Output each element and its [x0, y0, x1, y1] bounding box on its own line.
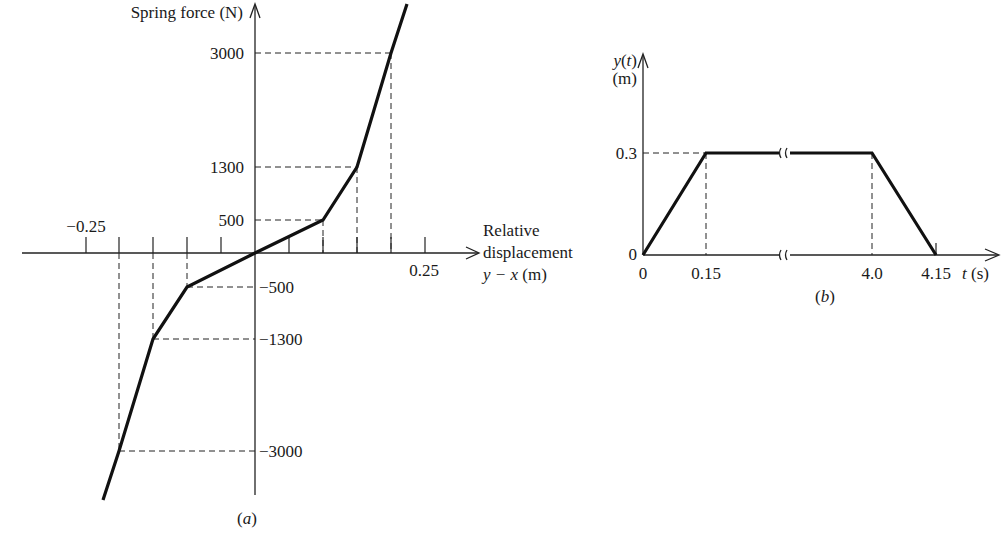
panel-b-xtick-0: 0 [639, 264, 648, 283]
panel-a-x-axis-label-line3: y − x (m) [481, 265, 547, 284]
panel-a-spring-force-chart: Spring force (N) 3000 1300 500 −500 −130… [22, 3, 573, 528]
panel-a-ytick-1300: 1300 [210, 158, 244, 177]
panel-b-xtick-415-label: 4.15 [921, 264, 951, 283]
panel-b-displacement-chart: y(t) (m) 0.3 0 0 0.15 4.0 4.15 t (s) (b) [611, 51, 999, 306]
panel-b-displacement-curve-left [643, 153, 779, 255]
panel-a-ytick-neg1300: −1300 [259, 330, 303, 349]
panel-a-y-axis-label: Spring force (N) [131, 3, 243, 22]
panel-b-displacement-curve-right [790, 153, 936, 255]
panel-a-ytick-500: 500 [219, 211, 245, 230]
panel-a-x-axis-label-line2: displacement [483, 243, 573, 262]
panel-b-ytick-03: 0.3 [616, 144, 637, 163]
panel-a-x-axis-label-unit: (m) [518, 265, 547, 284]
panel-b-xtick-015-label: 0.15 [691, 264, 721, 283]
panel-a-xtick-025: 0.25 [409, 261, 439, 280]
panel-b-curve-break-icon [780, 148, 788, 158]
panel-a-x-axis-label-line1: Relative [483, 221, 540, 240]
panel-b-x-axis-label: t (s) [962, 264, 989, 283]
panel-b-guide-lines [643, 153, 872, 255]
figure: Spring force (N) 3000 1300 500 −500 −130… [0, 0, 1007, 536]
panel-b-x-axis-break-icon [780, 250, 788, 260]
panel-b-ytick-0: 0 [629, 245, 638, 264]
panel-a-caption: (a) [237, 509, 257, 528]
panel-b-caption: (b) [815, 287, 835, 306]
panel-a-x-axis-label-var: y − x [481, 265, 519, 284]
panel-a-ytick-neg3000: −3000 [259, 442, 303, 461]
panel-a-ytick-3000: 3000 [210, 44, 244, 63]
panel-b-y-axis-label-line1: y(t) [611, 51, 637, 70]
panel-a-ytick-neg500: −500 [259, 278, 294, 297]
panel-a-xtick-neg025: −0.25 [66, 217, 105, 236]
panel-b-y-axis-label-line2: (m) [612, 69, 637, 88]
panel-b-xtick-40-label: 4.0 [861, 264, 882, 283]
